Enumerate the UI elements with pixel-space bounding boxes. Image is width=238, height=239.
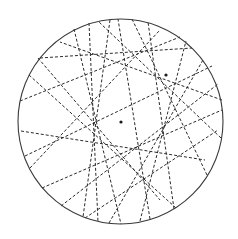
trajectory-chord — [83, 20, 110, 217]
trajectory-chord — [38, 58, 160, 200]
trajectory-chord — [30, 30, 160, 168]
trajectory-chord — [40, 48, 192, 58]
focus-point — [164, 73, 167, 76]
trajectory-chord — [99, 22, 221, 138]
trajectory-chord — [29, 75, 176, 208]
focus-point — [119, 120, 122, 123]
trajectory-chord — [118, 19, 150, 219]
billiard-diagram — [0, 0, 238, 239]
trajectory-chord — [132, 19, 207, 175]
